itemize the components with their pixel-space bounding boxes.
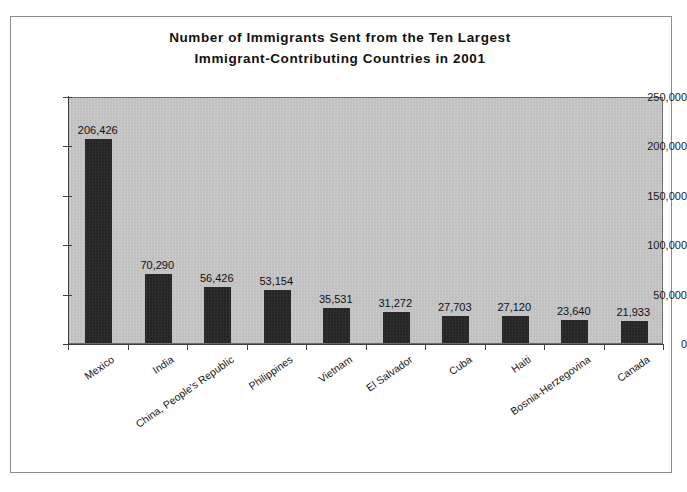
bar: [145, 274, 172, 343]
chart-title-line-2: Immigrant-Contributing Countries in 2001: [40, 48, 640, 69]
bar-value-label: 206,426: [78, 124, 118, 136]
x-tick-mark: [485, 345, 486, 350]
bar-value-label: 27,703: [438, 301, 472, 313]
y-tick-label: 200,000: [629, 140, 687, 152]
y-tick-mark: [63, 196, 72, 197]
x-tick-mark: [247, 345, 248, 350]
bar-value-label: 56,426: [200, 272, 234, 284]
bar: [323, 308, 350, 343]
y-tick-label: 100,000: [629, 239, 687, 251]
x-tick-mark: [604, 345, 605, 350]
y-tick-label: 0: [629, 338, 687, 350]
y-tick-mark: [63, 245, 72, 246]
x-tick-mark: [425, 345, 426, 350]
bar-value-label: 21,933: [616, 306, 650, 318]
bar-value-label: 27,120: [497, 301, 531, 313]
x-tick-mark: [306, 345, 307, 350]
x-tick-mark: [128, 345, 129, 350]
bar-value-label: 35,531: [319, 293, 353, 305]
bar: [264, 290, 291, 343]
y-tick-mark: [63, 97, 72, 98]
y-tick-label: 250,000: [629, 91, 687, 103]
chart-title-line-1: Number of Immigrants Sent from the Ten L…: [169, 30, 511, 45]
bar: [502, 316, 529, 343]
bar-value-label: 31,272: [378, 297, 412, 309]
bar-value-label: 53,154: [259, 275, 293, 287]
x-tick-mark: [187, 345, 188, 350]
x-tick-mark: [366, 345, 367, 350]
bar: [442, 316, 469, 343]
x-tick-mark: [544, 345, 545, 350]
bar: [561, 320, 588, 343]
chart-figure: Number of Immigrants Sent from the Ten L…: [0, 0, 687, 492]
y-tick-mark: [63, 146, 72, 147]
bar: [204, 287, 231, 343]
y-tick-mark: [63, 295, 72, 296]
y-tick-label: 150,000: [629, 190, 687, 202]
x-tick-mark: [663, 345, 664, 350]
x-tick-mark: [68, 345, 69, 350]
bar: [85, 139, 112, 343]
chart-title: Number of Immigrants Sent from the Ten L…: [40, 27, 640, 69]
bar-value-label: 70,290: [140, 259, 174, 271]
y-tick-label: 50,000: [629, 289, 687, 301]
bar: [383, 312, 410, 343]
bar-value-label: 23,640: [557, 305, 591, 317]
y-axis-line: [68, 96, 69, 345]
